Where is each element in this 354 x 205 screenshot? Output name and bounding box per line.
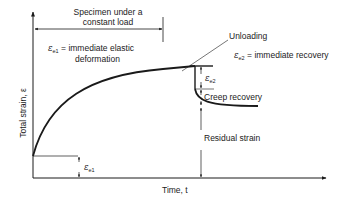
unloading-text: Unloading bbox=[229, 31, 267, 41]
creep-diagram-canvas bbox=[0, 0, 354, 205]
immediate-recovery-label: εe2 = immediate recovery bbox=[234, 50, 329, 63]
elastic-deformation-text: = immediate elastic bbox=[61, 43, 134, 53]
loading-span-label: Specimen under a constant load bbox=[58, 7, 158, 27]
creep-recovery-label: Creep recovery bbox=[204, 92, 262, 102]
loading-span-label-line1: Specimen under a bbox=[58, 7, 158, 17]
x-axis-label-text: Time, t bbox=[162, 185, 188, 195]
e1-marker-label: εe1 bbox=[84, 162, 95, 175]
x-axis-label: Time, t bbox=[162, 185, 188, 195]
immediate-recovery-text: = immediate recovery bbox=[247, 50, 329, 60]
y-axis-label-text: Total strain, ε bbox=[18, 88, 28, 138]
creep-recovery-text: Creep recovery bbox=[204, 92, 262, 102]
e2-marker-label: εe2 bbox=[205, 73, 216, 86]
residual-strain-text: Residual strain bbox=[204, 133, 260, 143]
loading-span-label-line2: constant load bbox=[58, 17, 158, 27]
subscript: e2 bbox=[239, 55, 245, 61]
subscript: e1 bbox=[89, 167, 95, 173]
y-axis-label: Total strain, ε bbox=[18, 78, 28, 148]
elastic-deformation-label-line2: deformation bbox=[75, 54, 120, 64]
unloading-label: Unloading bbox=[229, 31, 267, 41]
residual-strain-label: Residual strain bbox=[204, 133, 260, 143]
creep-curve bbox=[33, 66, 195, 156]
elastic-deformation-text-line2: deformation bbox=[75, 54, 120, 64]
subscript: e2 bbox=[210, 78, 216, 84]
subscript: e1 bbox=[53, 48, 59, 54]
